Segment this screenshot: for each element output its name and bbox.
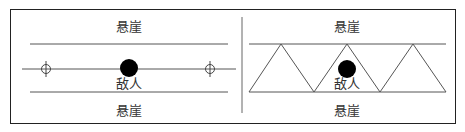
cliff-label-top: 悬崖 xyxy=(116,20,142,33)
cliff-label-bottom: 悬崖 xyxy=(334,104,360,117)
cliff-label-top: 悬崖 xyxy=(334,20,360,33)
enemy-label: 敌人 xyxy=(116,77,142,90)
cliff-label-bottom: 悬崖 xyxy=(116,104,142,117)
enemy-label: 敌人 xyxy=(334,77,360,90)
enemy-dot xyxy=(120,59,138,77)
diagram-canvas xyxy=(0,0,465,132)
